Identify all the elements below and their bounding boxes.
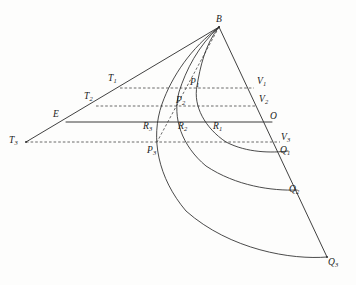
point-label-Q3-sub: 3 — [335, 261, 338, 268]
point-label-Q2-sub: 2 — [296, 188, 299, 195]
point-label-P1-sub: 1 — [196, 81, 199, 88]
dashed-ray-B-to-P3 — [157, 27, 219, 142]
point-label-V3: V3 — [281, 133, 290, 143]
point-label-R3-base: R — [143, 121, 149, 131]
curve-B-P1-R1-Q1 — [196, 27, 288, 152]
curve-B-P2-R2-Q2 — [177, 27, 297, 190]
figure-canvas: B T1 T2 T3 E O V1 V2 V3 P1 P2 P3 R1 R2 R… — [0, 0, 356, 285]
point-label-P3-base: P — [147, 145, 153, 155]
point-label-O-base: O — [270, 111, 277, 121]
point-label-V1: V1 — [257, 77, 266, 87]
point-label-E-base: E — [53, 109, 59, 119]
point-label-Q2-base: Q — [289, 184, 296, 194]
point-label-R2: R2 — [178, 122, 187, 132]
point-label-Q1-base: Q — [280, 145, 287, 155]
vertex-dot-B — [218, 26, 220, 28]
point-label-R1-sub: 1 — [219, 125, 222, 132]
point-label-T2: T2 — [84, 92, 93, 102]
point-label-R1: R1 — [213, 122, 222, 132]
curve-B-P3-R3-Q3 — [157, 27, 327, 257]
point-label-Q1: Q1 — [280, 146, 290, 156]
point-label-V1-sub: 1 — [263, 80, 266, 87]
point-label-V2: V2 — [259, 95, 268, 105]
point-label-V1-base: V — [257, 76, 263, 86]
point-label-P2-base: P — [176, 95, 182, 105]
point-label-B-base: B — [216, 14, 222, 24]
point-label-P2: P2 — [176, 96, 185, 106]
point-label-P2-sub: 2 — [182, 99, 185, 106]
point-label-R2-base: R — [178, 121, 184, 131]
point-label-Q2: Q2 — [289, 185, 299, 195]
point-label-Q3-base: Q — [328, 257, 335, 267]
point-label-P3-sub: 3 — [153, 149, 156, 156]
point-label-B: B — [216, 15, 222, 25]
point-label-Q3: Q3 — [328, 258, 338, 268]
point-label-V2-sub: 2 — [265, 98, 268, 105]
point-label-R2-sub: 2 — [184, 125, 187, 132]
point-label-R1-base: R — [213, 121, 219, 131]
point-label-V3-base: V — [281, 132, 287, 142]
point-label-V3-sub: 3 — [287, 136, 290, 143]
point-label-R3-sub: 3 — [149, 125, 152, 132]
point-label-T1-sub: 1 — [113, 77, 116, 84]
point-label-P3: P3 — [147, 146, 156, 156]
point-label-P1-base: P — [190, 77, 196, 87]
geometry-svg — [0, 0, 356, 285]
point-label-V2-base: V — [259, 94, 265, 104]
point-label-T3-sub: 3 — [14, 139, 17, 146]
vertex-dot-T3 — [25, 141, 27, 143]
point-label-E: E — [53, 110, 59, 120]
point-label-Q1-sub: 1 — [287, 149, 290, 156]
point-label-R3: R3 — [143, 122, 152, 132]
point-label-T3: T3 — [9, 136, 18, 146]
point-label-T1: T1 — [108, 74, 117, 84]
point-label-O: O — [270, 112, 277, 122]
point-label-P1: P1 — [190, 78, 199, 88]
point-label-T2-sub: 2 — [89, 95, 92, 102]
